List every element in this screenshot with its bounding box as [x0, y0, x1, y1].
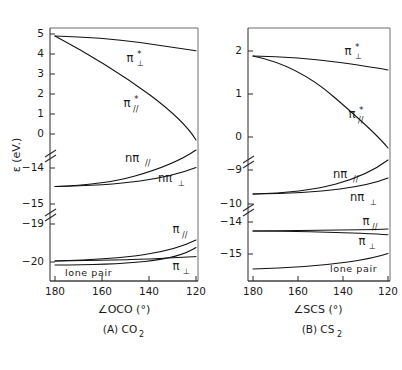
svg-text:nπ: nπ [333, 167, 347, 181]
panel-b-ytick-m15: −15 [220, 247, 242, 259]
panel-b-ytick-m14: −14 [220, 215, 242, 227]
svg-text:nπ: nπ [158, 171, 172, 185]
panel-a-ytick-0: 0 [37, 127, 44, 139]
panel-b-xtick-180: 180 [243, 285, 263, 297]
panel-b-y-ticks-upper [248, 51, 253, 137]
svg-text:⊥: ⊥ [178, 179, 185, 188]
svg-text:*: * [355, 42, 360, 52]
panel-b-ytick-1: 1 [235, 87, 242, 99]
panel-b-x-axis-title: ∠SCS (°) [293, 303, 342, 316]
curve-label-a-pi-par-star: π // * [124, 94, 139, 114]
svg-text:π: π [359, 234, 366, 248]
svg-text:*: * [137, 49, 142, 59]
svg-text:(B) CS: (B) CS [302, 323, 335, 335]
panel-a-ytick-m15: −15 [22, 197, 44, 209]
svg-text:π: π [127, 51, 134, 65]
panel-b-y-ticks-middle [248, 170, 253, 204]
panel-b-xtick-160: 160 [288, 285, 308, 297]
svg-text:⊥: ⊥ [355, 52, 362, 61]
svg-text:π: π [173, 222, 180, 236]
panel-a-x-axis-title: ∠OCO (°) [98, 303, 150, 316]
curve-label-b-n-pi-perp: nπ ⊥ [350, 190, 377, 207]
panel-a-ytick-m19: −19 [22, 217, 44, 229]
svg-text:⊥: ⊥ [369, 242, 376, 251]
panel-a-xtick-140: 140 [139, 285, 159, 297]
svg-text:⊥: ⊥ [370, 198, 377, 207]
curve-b-n-pi-par [253, 160, 388, 194]
panel-b-ytick-2: 2 [235, 44, 242, 56]
curve-label-b-pi-perp-star: π ⊥ * [345, 42, 362, 61]
curve-label-a-pi-perp: π ⊥ [173, 259, 190, 276]
svg-text://: // [145, 159, 151, 168]
curve-b-n-pi-perp [253, 178, 388, 194]
panel-b-ytick-m9: −9 [227, 163, 242, 175]
curve-b-pi-perp-star [253, 56, 388, 70]
svg-text://: // [133, 105, 139, 114]
panel-a-y-ticks-upper [50, 34, 55, 134]
curve-label-b-pi-perp: π ⊥ [359, 234, 376, 251]
curve-a-n-pi-perp [55, 168, 196, 187]
curve-b-pi-perp [253, 231, 388, 235]
y-axis-title: ε (eV.) [10, 138, 23, 172]
panel-a-xtick-160: 160 [92, 285, 112, 297]
curve-label-b-pi-par-star: π // * [349, 105, 364, 125]
svg-text:2: 2 [337, 330, 342, 339]
panel-a-ytick-2: 2 [37, 87, 44, 99]
svg-text://: // [182, 231, 188, 240]
panel-a-xtick-120: 120 [186, 285, 206, 297]
panel-a-lone-pair-label: lone pair [65, 267, 112, 278]
panel-cs2: 2 1 0 −9 −10 −14 −15 180 160 140 120 π ⊥… [220, 28, 398, 339]
panel-a-ytick-3: 3 [37, 67, 44, 79]
svg-text:*: * [359, 105, 364, 115]
panel-a-ytick-1: 1 [37, 107, 44, 119]
panel-a-ytick-m14: −14 [22, 161, 44, 173]
panel-a-y-ticks-lower [50, 224, 55, 262]
panel-b-ytick-m10: −10 [220, 197, 242, 209]
panel-a-xtick-180: 180 [45, 285, 65, 297]
panel-a-ytick-m20: −20 [22, 255, 44, 267]
panel-a-ytick-5: 5 [37, 27, 44, 39]
svg-text:π: π [124, 96, 131, 110]
panel-b-xtick-140: 140 [333, 285, 353, 297]
panel-b-xtick-120: 120 [378, 285, 398, 297]
panel-b-lone-pair-label: lone pair [330, 263, 377, 274]
panel-b-caption: (B) CS 2 [302, 323, 342, 339]
svg-text:*: * [134, 94, 139, 104]
orbital-energy-correlation-figure: 5 4 3 2 1 0 −14 −15 −19 −20 180 160 140 … [0, 0, 402, 370]
svg-text://: // [353, 175, 359, 184]
svg-text:2: 2 [139, 330, 144, 339]
svg-text:⊥: ⊥ [137, 59, 144, 68]
svg-text:π: π [363, 214, 370, 228]
curve-label-a-n-pi-perp: nπ ⊥ [158, 171, 185, 188]
panel-b-ytick-0: 0 [235, 130, 242, 142]
svg-text://: // [372, 223, 378, 232]
svg-text:(A) CO: (A) CO [103, 323, 137, 335]
curve-a-pi-par-star [55, 36, 196, 140]
svg-text:π: π [173, 259, 180, 273]
svg-text:π: π [349, 107, 356, 121]
panel-a-ytick-4: 4 [37, 47, 44, 59]
curve-a-pi-perp-star [55, 36, 196, 51]
panel-b-y-ticks-lower [248, 222, 253, 254]
curve-label-a-pi-par: π // [173, 222, 188, 240]
svg-text:⊥: ⊥ [183, 267, 190, 276]
svg-text://: // [358, 116, 364, 125]
panel-a-y-ticks-middle [50, 168, 55, 204]
curve-b-pi-par-star [253, 56, 388, 148]
panel-b-x-ticks [253, 276, 388, 281]
curve-label-a-pi-perp-star: π ⊥ * [127, 49, 144, 68]
svg-text:π: π [345, 44, 352, 58]
panel-co2: 5 4 3 2 1 0 −14 −15 −19 −20 180 160 140 … [22, 27, 206, 339]
panel-a-caption: (A) CO 2 [103, 323, 144, 339]
svg-text:nπ: nπ [350, 190, 364, 204]
svg-text:nπ: nπ [125, 151, 139, 165]
curve-label-a-n-pi-par: nπ // [125, 151, 151, 168]
